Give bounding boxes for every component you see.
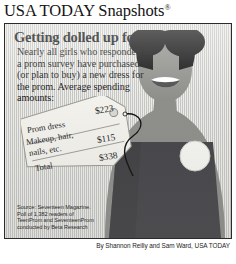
masthead-brand: USA TODAY Snapshots® <box>4 1 232 21</box>
price-tag: Prom dress $223 Makeup, hair, nails, etc… <box>21 96 147 176</box>
masthead-brand-text: USA TODAY Snapshots <box>4 1 164 20</box>
source-line-2: Poll of 1,382 readers of <box>17 211 129 218</box>
registered-trademark-icon: ® <box>164 3 170 12</box>
infographic-panel: Getting dolled up for the prom Nearly al… <box>4 23 232 239</box>
masthead: USA TODAY Snapshots® <box>4 1 232 21</box>
source-line-4: conducted by Beta Research <box>17 224 129 231</box>
page-title: Getting dolled up for the prom <box>14 29 214 45</box>
usa-today-snapshot: USA TODAY Snapshots® <box>0 0 236 264</box>
source-line-1: Source: Seventeen Magazine. <box>17 204 129 211</box>
source-note: Source: Seventeen Magazine. Poll of 1,38… <box>17 204 129 230</box>
source-line-3: TeenProm and SeventeenProm <box>17 217 129 224</box>
credit-line: By Shannon Reilly and Sam Ward, USA TODA… <box>4 242 232 249</box>
